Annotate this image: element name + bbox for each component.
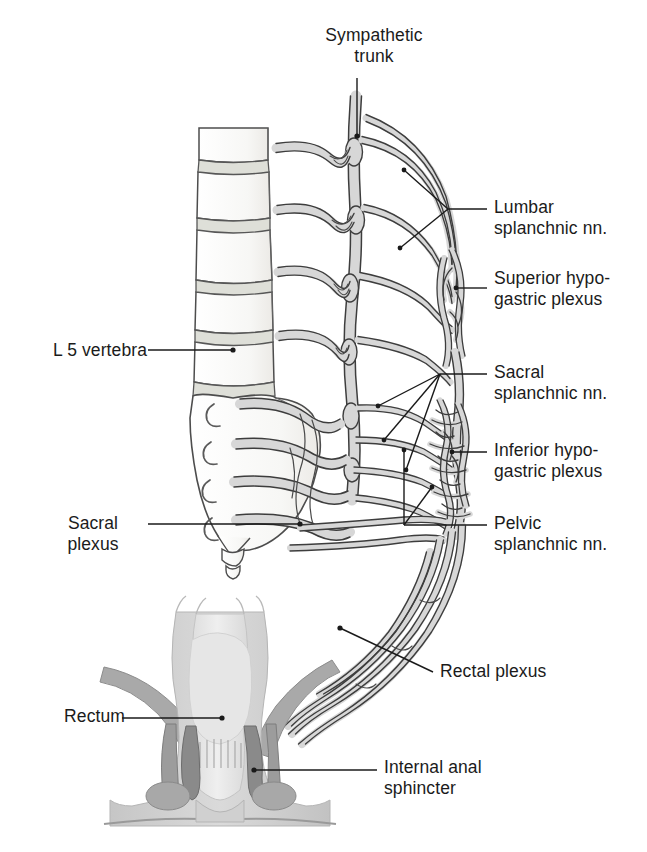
external-anal-sphincter-left [146, 782, 190, 810]
label-pelvic-splanchnic-nn: Pelvic splanchnic nn. [494, 513, 646, 555]
label-l5-vertebra: L 5 vertebra [27, 340, 147, 361]
label-sacral-splanchnic-nn: Sacral splanchnic nn. [494, 362, 646, 404]
label-sympathetic-trunk: Sympathetic trunk [304, 25, 444, 67]
label-rectal-plexus: Rectal plexus [440, 661, 610, 682]
label-internal-anal-sphincter: Internal anal sphincter [384, 757, 554, 799]
label-lumbar-splanchnic-nn: Lumbar splanchnic nn. [494, 197, 646, 239]
label-inferior-hypogastric-plexus: Inferior hypo- gastric plexus [494, 440, 646, 482]
lumbar-rami-communicantes [276, 142, 354, 362]
rectal-plexus [285, 526, 466, 744]
rectal-ampulla [189, 633, 252, 744]
coccyx-segment-2 [226, 566, 240, 579]
superior-hypogastric-plexus [437, 250, 465, 366]
skeleton-group [190, 128, 320, 579]
label-sacral-plexus: Sacral plexus [38, 513, 148, 555]
label-superior-hypogastric-plexus: Superior hypo- gastric plexus [494, 268, 646, 310]
label-rectum: Rectum [30, 706, 125, 727]
external-anal-sphincter-right [252, 782, 296, 810]
lumbar-splanchnic-nerves [358, 115, 457, 386]
rectum-superior-outline [176, 596, 264, 614]
